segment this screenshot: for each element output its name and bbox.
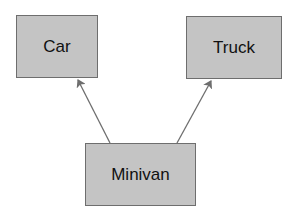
node-truck: Truck (186, 16, 282, 79)
node-car: Car (16, 15, 98, 78)
arrow-minivan-to-truck (177, 81, 211, 143)
node-minivan-label: Minivan (111, 165, 170, 185)
node-truck-label: Truck (213, 38, 255, 58)
node-car-label: Car (43, 37, 70, 57)
arrow-minivan-to-car (78, 80, 110, 143)
node-minivan: Minivan (85, 143, 196, 206)
